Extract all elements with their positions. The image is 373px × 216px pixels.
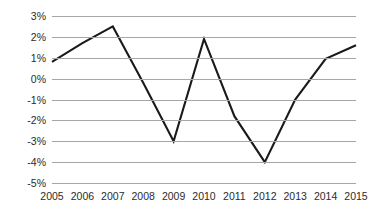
y-axis: 3%2%1%0%-1%-2%-3%-4%-5%	[0, 0, 46, 216]
x-tick-label: 2010	[192, 190, 215, 203]
gridline	[52, 162, 356, 163]
x-tick-label: 2005	[40, 190, 63, 203]
gridline	[52, 37, 356, 38]
x-tick-label: 2009	[162, 190, 185, 203]
x-tick-label: 2012	[253, 190, 276, 203]
y-tick-label: -2%	[0, 115, 46, 126]
gridline	[52, 58, 356, 59]
plot-area	[52, 16, 356, 183]
x-tick-label: 2006	[71, 190, 94, 203]
gridline	[52, 79, 356, 80]
y-tick-label: 2%	[0, 31, 46, 42]
x-tick-label: 2015	[344, 190, 367, 203]
y-tick-label: 3%	[0, 11, 46, 22]
y-tick-label: -5%	[0, 178, 46, 189]
gridline	[52, 120, 356, 121]
y-tick-label: 1%	[0, 52, 46, 63]
gridline	[52, 100, 356, 101]
gridline	[52, 16, 356, 17]
x-tick-label: 2007	[101, 190, 124, 203]
line-chart: 3%2%1%0%-1%-2%-3%-4%-5% 2005200620072008…	[0, 0, 373, 216]
gridline	[52, 183, 356, 184]
y-tick-label: -1%	[0, 94, 46, 105]
x-axis: 2005200620072008200920102011201220132014…	[52, 190, 356, 206]
x-tick-label: 2014	[314, 190, 337, 203]
y-tick-label: -3%	[0, 136, 46, 147]
gridline	[52, 141, 356, 142]
y-tick-label: 0%	[0, 73, 46, 84]
y-tick-label: -4%	[0, 157, 46, 168]
x-tick-label: 2011	[223, 190, 246, 203]
x-tick-label: 2008	[132, 190, 155, 203]
x-tick-label: 2013	[284, 190, 307, 203]
